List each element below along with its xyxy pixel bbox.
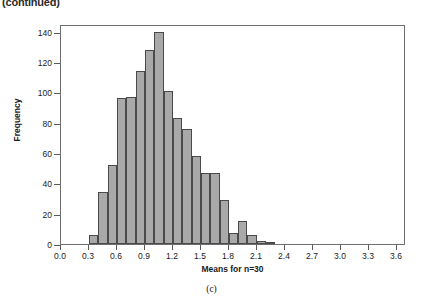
y-axis-tick-label: 100	[18, 88, 52, 98]
y-axis-tick	[54, 215, 60, 216]
histogram-bar	[89, 235, 98, 244]
histogram-bar	[98, 192, 107, 244]
histogram-bar	[164, 91, 173, 244]
x-axis-tick	[284, 245, 285, 250]
histogram-bar	[173, 118, 182, 244]
x-axis-tick	[396, 245, 397, 250]
y-axis-tick	[54, 154, 60, 155]
y-axis-tick-label: 0	[18, 240, 52, 250]
histogram-bar	[247, 235, 256, 244]
y-axis-tick	[54, 63, 60, 64]
x-axis-tick	[256, 245, 257, 250]
y-axis-tick-label: 60	[18, 149, 52, 159]
histogram-bar	[145, 50, 154, 244]
histogram-bar	[192, 156, 201, 244]
x-axis-tick	[116, 245, 117, 250]
histogram-bar	[257, 241, 266, 244]
y-axis-tick	[54, 184, 60, 185]
histogram-figure: Frequency 020406080100120140 0.00.30.60.…	[0, 0, 423, 307]
histogram-bar	[210, 173, 219, 244]
x-axis-tick	[312, 245, 313, 250]
y-axis-tick-label: 40	[18, 179, 52, 189]
y-axis-tick-label: 20	[18, 210, 52, 220]
x-axis-tick	[88, 245, 89, 250]
histogram-bar	[136, 71, 145, 244]
x-axis-tick	[340, 245, 341, 250]
y-axis-tick	[54, 124, 60, 125]
histogram-bar	[266, 242, 275, 244]
x-axis-title: Means for n=30	[60, 264, 405, 274]
y-axis-tick-label: 140	[18, 28, 52, 38]
histogram-bar	[229, 233, 238, 244]
histogram-bar	[154, 32, 163, 244]
y-axis-tick-label: 120	[18, 58, 52, 68]
plot-frame	[60, 25, 405, 245]
histogram-bar	[238, 221, 247, 244]
x-axis-tick	[200, 245, 201, 250]
histogram-bar	[220, 200, 229, 244]
x-axis-tick-label: 3.6	[379, 251, 413, 261]
x-axis-tick	[368, 245, 369, 250]
histogram-bar	[201, 173, 210, 244]
x-axis-tick	[144, 245, 145, 250]
x-axis-tick	[60, 245, 61, 250]
histogram-bar	[126, 97, 135, 244]
y-axis-tick	[54, 33, 60, 34]
bar-series	[61, 26, 404, 244]
y-axis-tick-label: 80	[18, 119, 52, 129]
histogram-bar	[117, 98, 126, 244]
histogram-bar	[108, 165, 117, 244]
y-axis-tick	[54, 93, 60, 94]
histogram-bar	[182, 129, 191, 244]
panel-caption: (c)	[0, 284, 423, 294]
x-axis-tick	[172, 245, 173, 250]
x-axis-tick	[228, 245, 229, 250]
